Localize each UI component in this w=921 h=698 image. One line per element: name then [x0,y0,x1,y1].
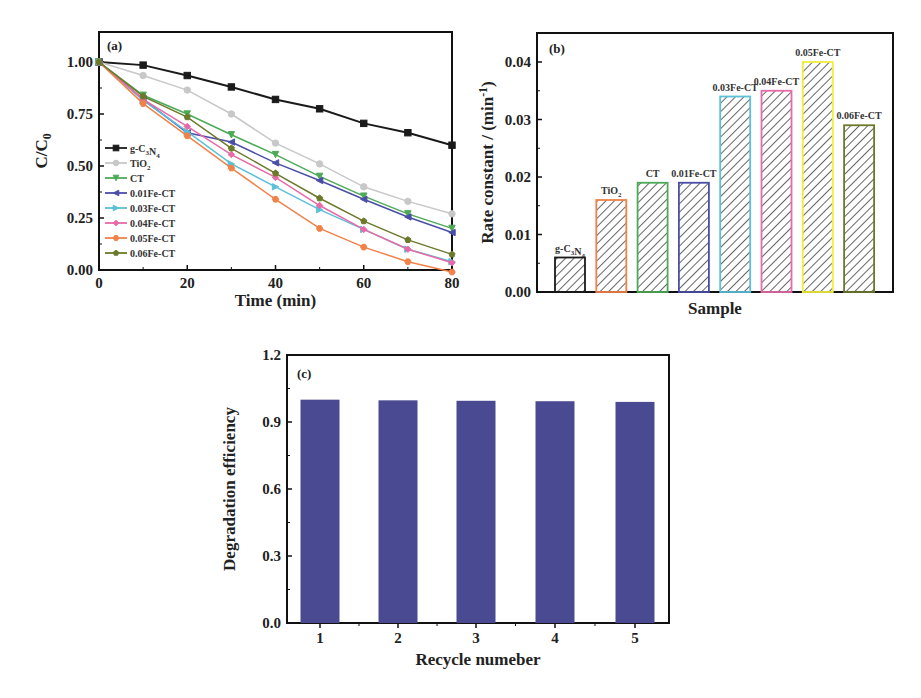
text-run: 0.05Fe-CT [130,233,176,244]
bar-0.05Fe-CT: 0.05Fe-CT [795,47,841,292]
hexagon-marker [361,244,367,250]
triangle-right-marker [113,205,119,211]
x-tick-label: 4 [551,630,559,646]
y-tick-label: 0.50 [67,158,93,174]
bar-label: 0.04Fe-CT [754,76,800,87]
legend-label: 0.06Fe-CT [130,248,176,259]
legend-item: TiO2 [105,158,151,172]
series-line [99,62,452,145]
y-tick-label: 0.6 [262,481,281,497]
pentagon-marker [113,250,118,255]
square-marker [316,106,322,112]
circle-marker [361,184,367,190]
circle-marker [113,160,119,166]
legend: g-C3N4TiO2CT0.01Fe-CT0.03Fe-CT0.04Fe-CT0… [105,143,176,259]
square-marker [405,130,411,136]
circle-marker [272,140,278,146]
hexagon-marker [449,269,455,275]
bar-g-C3N4: g-C3N4 [555,243,585,293]
bar-label: TiO2 [601,185,622,199]
triangle-left-marker [272,160,278,166]
text-run: CT [646,168,660,179]
text-run: 0.04Fe-CT [130,218,176,229]
y-axis-label: C/C0 [32,133,54,168]
bar-recycle-4 [536,401,575,623]
bar-CT: CT [638,168,668,292]
pentagon-marker [272,170,278,176]
circle-marker [140,72,146,78]
hexagon-marker [272,197,278,203]
bar [803,62,833,292]
text-run: ) [478,81,497,87]
text-run: TiO [130,158,147,169]
x-tick-label: 0 [95,275,103,291]
x-tick-label: 60 [356,275,371,291]
bar [638,183,668,292]
text-run: Rate constant / (min [478,96,497,243]
y-tick-label: 1.2 [262,347,281,363]
bar [596,200,626,292]
panel-label: (c) [297,366,311,381]
y-tick-label: 0.75 [67,106,93,122]
pentagon-marker [405,237,411,243]
panel-a-line-chart: 0.000.250.500.751.00020406080Time (min)C… [32,32,460,310]
hexagon-marker [184,133,190,139]
x-tick-label: 20 [180,275,195,291]
y-tick-label: 0.02 [505,169,531,185]
bar-label: CT [646,168,660,179]
legend-item: 0.01Fe-CT [105,188,176,199]
circle-marker [228,111,234,117]
x-tick-label: 3 [472,630,480,646]
bar [301,400,340,623]
x-tick-label: 40 [268,275,283,291]
pentagon-marker [361,218,367,224]
legend-item: 0.04Fe-CT [105,218,176,229]
x-tick-label: 1 [316,630,324,646]
text-run: 0.03Fe-CT [713,82,759,93]
text-run: 0.03Fe-CT [130,203,176,214]
text-run: 0.06Fe-CT [130,248,176,259]
y-tick-label: 0.00 [67,262,93,278]
legend-label: TiO2 [130,158,151,172]
y-tick-label: 0.03 [505,112,531,128]
pentagon-marker [449,251,455,257]
bar [720,97,750,293]
text-run: 0.05Fe-CT [795,47,841,58]
bar-recycle-5 [616,402,655,623]
panel-b-bar-chart: 0.000.010.020.030.04SampleRate constant … [476,33,893,318]
panel-c-bar-chart: 0.00.30.60.91.2Recycle numeberDegradatio… [220,347,669,669]
legend-item: 0.06Fe-CT [105,248,176,259]
hexagon-marker [316,226,322,232]
subscript: 2 [618,191,622,199]
bar-label: 0.05Fe-CT [795,47,841,58]
panel-label: (b) [549,41,565,56]
x-axis-label: Time (min) [235,291,316,310]
y-tick-label: 0.00 [505,284,531,300]
pentagon-marker [317,195,323,201]
hexagon-marker [140,101,146,107]
y-tick-label: 0.25 [67,210,93,226]
square-marker [228,84,234,90]
square-marker [184,72,190,78]
diamond-marker [113,220,119,226]
x-axis-label: Sample [688,299,742,318]
text-run: 0.01Fe-CT [130,188,176,199]
subscript: 2 [147,164,151,172]
y-tick-label: 0.3 [262,548,281,564]
circle-marker [405,198,411,204]
bar-label: 0.03Fe-CT [713,82,759,93]
bar-0.03Fe-CT: 0.03Fe-CT [713,82,759,293]
y-tick-label: 0.9 [262,414,281,430]
panel-label: (a) [107,38,122,53]
square-marker [449,142,455,148]
figure: 0.000.250.500.751.00020406080Time (min)C… [0,0,921,698]
circle-marker [316,161,322,167]
bar [457,401,496,623]
hexagon-marker [228,165,234,171]
legend-item: 0.05Fe-CT [105,233,176,244]
y-tick-label: 0.0 [262,615,281,631]
x-tick-label: 5 [631,630,639,646]
x-axis-label: Recycle numeber [415,650,541,669]
bar [616,402,655,623]
square-marker [361,120,367,126]
